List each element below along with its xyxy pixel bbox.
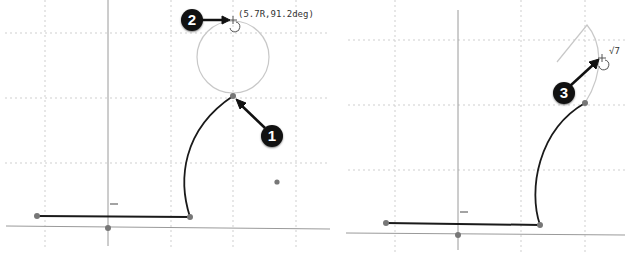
sketch-points: [383, 100, 588, 238]
sketch-canvas-right[interactable]: √7 3: [338, 0, 625, 254]
sketch-points: [34, 93, 280, 231]
sketch-canvas-left[interactable]: (5.7R,91.2deg) 2 1: [0, 0, 330, 254]
sketch-line: [37, 216, 190, 217]
sketch-line: [386, 223, 540, 225]
sketch-arc: [535, 103, 585, 225]
cursor-icon: [598, 54, 609, 70]
grid-lines: [348, 0, 625, 252]
grid-lines: [5, 0, 330, 250]
callout-badge-2: 2: [181, 9, 203, 31]
axes: [6, 0, 330, 246]
callout-badge-1: 1: [261, 125, 283, 147]
sketch-drawing-left: [0, 0, 330, 254]
sketch-drawing-right: [338, 0, 625, 254]
sketch-arc: [184, 96, 233, 217]
axes: [346, 10, 625, 250]
dimension-label: √7: [609, 46, 620, 56]
callout-badge-3: 3: [553, 82, 575, 104]
polar-coordinate-label: (5.7R,91.2deg): [238, 9, 314, 19]
